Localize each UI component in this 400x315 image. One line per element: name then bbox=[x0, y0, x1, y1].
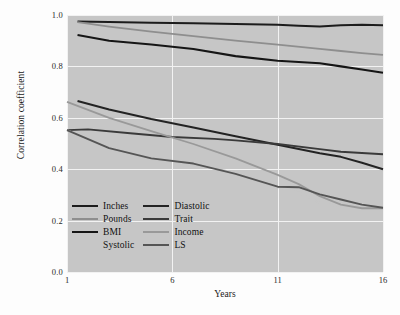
legend-label: Income bbox=[174, 227, 203, 237]
figure-caption bbox=[8, 306, 392, 315]
y-tick-label: 1.0 bbox=[35, 10, 63, 20]
series-line-ls bbox=[67, 130, 383, 208]
legend-label: Trait bbox=[174, 214, 193, 224]
x-tick-label: 1 bbox=[65, 275, 69, 285]
legend-swatch-systolic-icon bbox=[72, 244, 98, 246]
legend-swatch-trait-icon bbox=[143, 218, 169, 220]
legend-label: Systolic bbox=[103, 240, 134, 250]
legend-label: Pounds bbox=[103, 214, 132, 224]
legend-column-right: DiastolicTraitIncomeLS bbox=[143, 199, 209, 251]
y-tick-label: 0.6 bbox=[35, 113, 63, 123]
series-line-systolic bbox=[67, 130, 383, 208]
y-tick-label: 0.0 bbox=[35, 267, 63, 277]
legend-item-diastolic[interactable]: Diastolic bbox=[143, 199, 209, 212]
y-tick-label: 0.2 bbox=[35, 216, 63, 226]
y-axis-ticks: 0.00.20.40.60.81.0 bbox=[30, 15, 63, 272]
gridline-y bbox=[67, 272, 383, 273]
legend-item-income[interactable]: Income bbox=[143, 225, 209, 238]
legend-swatch-ls-icon bbox=[143, 244, 169, 246]
legend-item-inches[interactable]: Inches bbox=[72, 199, 134, 212]
gridline-x bbox=[383, 15, 384, 272]
legend-swatch-diastolic-icon bbox=[143, 205, 169, 207]
legend-item-ls[interactable]: LS bbox=[143, 238, 209, 251]
legend-label: BMI bbox=[103, 227, 121, 237]
x-axis-ticks: 161116 bbox=[67, 275, 383, 287]
y-tick-label: 0.8 bbox=[35, 61, 63, 71]
legend-item-systolic[interactable]: Systolic bbox=[72, 238, 134, 251]
figure: 0.00.20.40.60.81.0 Correlation coefficie… bbox=[0, 0, 400, 315]
legend-label: Inches bbox=[103, 201, 128, 211]
x-tick-label: 16 bbox=[379, 275, 388, 285]
legend-swatch-income-icon bbox=[143, 231, 169, 233]
legend-label: Diastolic bbox=[174, 201, 209, 211]
legend-swatch-pounds-icon bbox=[72, 218, 98, 220]
series-line-pounds bbox=[78, 22, 383, 55]
x-tick-label: 6 bbox=[170, 275, 174, 285]
series-line-diastolic bbox=[78, 101, 383, 169]
legend-swatch-bmi-icon bbox=[72, 231, 98, 233]
legend-item-pounds[interactable]: Pounds bbox=[72, 212, 134, 225]
series-line-inches bbox=[78, 21, 383, 26]
legend-item-trait[interactable]: Trait bbox=[143, 212, 209, 225]
y-tick-label: 0.4 bbox=[35, 164, 63, 174]
legend-label: LS bbox=[174, 240, 185, 250]
legend: InchesPoundsBMISystolic DiastolicTraitIn… bbox=[72, 199, 210, 251]
x-axis-label: Years bbox=[67, 289, 383, 299]
legend-column-left: InchesPoundsBMISystolic bbox=[72, 199, 134, 251]
legend-item-bmi[interactable]: BMI bbox=[72, 225, 134, 238]
legend-swatch-inches-icon bbox=[72, 205, 98, 207]
y-axis-label: Correlation coefficient bbox=[16, 50, 26, 180]
x-tick-label: 11 bbox=[274, 275, 282, 285]
